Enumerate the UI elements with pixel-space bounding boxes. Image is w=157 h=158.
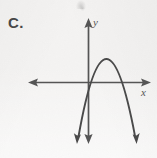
parabola-right-branch-arrow-icon [133,133,140,144]
parabola-curve [79,59,135,136]
parabola-group [74,59,140,144]
y-axis-label: y [93,17,98,28]
x-axis-label: x [141,87,146,98]
figure-screenshot: C. y x [0,0,157,158]
choice-label-c: C. [8,15,24,30]
parabola-left-branch-arrow-icon [74,133,81,144]
